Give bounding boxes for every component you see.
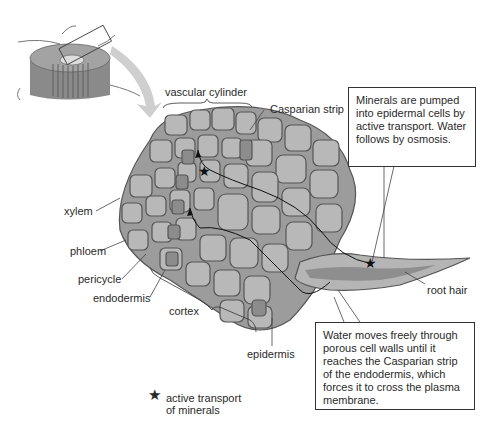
label-cortex: cortex [169, 305, 199, 317]
callout-active-transport: Minerals are pumped into epidermal cells… [348, 87, 476, 167]
label-pericycle: pericycle [78, 273, 121, 285]
label-epidermis: epidermis [247, 348, 295, 360]
label-xylem: xylem [64, 205, 93, 217]
label-root-hair: root hair [427, 284, 467, 296]
star-icon: ★ [364, 255, 377, 271]
legend-line-1: active transport [166, 392, 241, 404]
label-endodermis: endodermis [93, 292, 150, 304]
root-tissue-cells [119, 107, 355, 330]
zoom-arrow [110, 46, 162, 118]
label-vascular-cylinder: vascular cylinder [165, 86, 247, 98]
label-casparian-strip: Casparian strip [270, 103, 344, 115]
callout-casparian-strip: Water moves freely through porous cell w… [315, 322, 475, 410]
label-phloem: phloem [70, 245, 106, 257]
legend-line-2: of minerals [166, 404, 220, 416]
star-icon: ★ [148, 389, 161, 401]
star-icon: ★ [198, 163, 211, 179]
